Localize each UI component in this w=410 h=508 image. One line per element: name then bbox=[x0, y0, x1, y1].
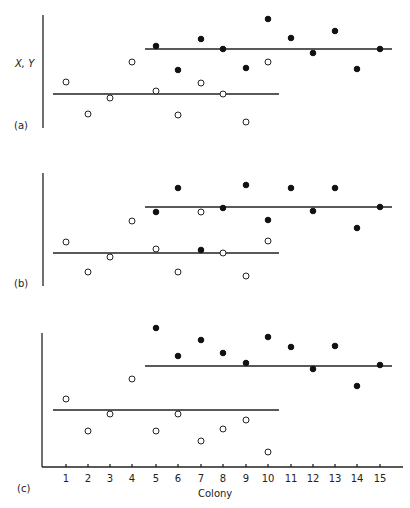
open-point bbox=[220, 91, 226, 97]
filled-point bbox=[153, 43, 159, 49]
open-point bbox=[153, 428, 159, 434]
data-points bbox=[53, 16, 392, 455]
filled-point bbox=[265, 217, 271, 223]
x-tick-label: 3 bbox=[107, 473, 113, 484]
open-point bbox=[153, 246, 159, 252]
open-point bbox=[198, 438, 204, 444]
filled-point bbox=[332, 185, 338, 191]
x-tick-label: 5 bbox=[153, 473, 159, 484]
filled-point bbox=[220, 46, 226, 52]
panel-b: (b) bbox=[14, 173, 43, 289]
filled-point bbox=[265, 16, 271, 22]
open-point bbox=[85, 269, 91, 275]
x-tick-label: 12 bbox=[307, 473, 320, 484]
open-point bbox=[107, 95, 113, 101]
panel-label-a: (a) bbox=[14, 120, 28, 131]
scatter-chart: X, Y (a) (b) (c) Colony 1234567891011121… bbox=[0, 0, 410, 508]
filled-point bbox=[175, 185, 181, 191]
filled-point bbox=[354, 225, 360, 231]
filled-point bbox=[332, 343, 338, 349]
open-point bbox=[63, 79, 69, 85]
x-tick-label: 8 bbox=[220, 473, 226, 484]
x-axis-label: Colony bbox=[198, 488, 232, 499]
open-point bbox=[129, 59, 135, 65]
filled-point bbox=[310, 50, 316, 56]
filled-point bbox=[220, 205, 226, 211]
panel-label-c: (c) bbox=[17, 483, 30, 494]
filled-point bbox=[354, 66, 360, 72]
filled-point bbox=[220, 350, 226, 356]
open-point bbox=[85, 111, 91, 117]
filled-point bbox=[175, 353, 181, 359]
open-point bbox=[243, 273, 249, 279]
open-point bbox=[243, 417, 249, 423]
filled-point bbox=[198, 337, 204, 343]
open-point bbox=[175, 411, 181, 417]
x-tick-label: 6 bbox=[175, 473, 181, 484]
x-tick-label: 14 bbox=[351, 473, 364, 484]
filled-point bbox=[198, 247, 204, 253]
filled-point bbox=[288, 344, 294, 350]
filled-point bbox=[377, 362, 383, 368]
x-tick-label: 15 bbox=[374, 473, 387, 484]
filled-point bbox=[243, 360, 249, 366]
x-tick-label: 10 bbox=[262, 473, 275, 484]
filled-point bbox=[377, 204, 383, 210]
filled-point bbox=[377, 46, 383, 52]
filled-point bbox=[198, 36, 204, 42]
panel-c: (c) Colony bbox=[17, 333, 403, 499]
open-point bbox=[243, 119, 249, 125]
open-point bbox=[220, 426, 226, 432]
x-tick-label: 9 bbox=[243, 473, 249, 484]
filled-point bbox=[310, 366, 316, 372]
filled-point bbox=[243, 65, 249, 71]
filled-point bbox=[243, 182, 249, 188]
open-point bbox=[85, 428, 91, 434]
open-point bbox=[107, 411, 113, 417]
open-point bbox=[265, 238, 271, 244]
open-point bbox=[107, 254, 113, 260]
y-axis-label: X, Y bbox=[14, 58, 35, 69]
x-tick-label: 1 bbox=[63, 473, 69, 484]
open-point bbox=[265, 449, 271, 455]
open-point bbox=[129, 376, 135, 382]
x-tick-label: 11 bbox=[285, 473, 298, 484]
open-point bbox=[175, 112, 181, 118]
open-point bbox=[63, 396, 69, 402]
filled-point bbox=[265, 334, 271, 340]
filled-point bbox=[310, 208, 316, 214]
open-point bbox=[153, 88, 159, 94]
filled-point bbox=[354, 383, 360, 389]
panel-label-b: (b) bbox=[14, 278, 28, 289]
open-point bbox=[220, 250, 226, 256]
x-tick-label: 13 bbox=[329, 473, 342, 484]
x-tick-label: 7 bbox=[198, 473, 204, 484]
open-point bbox=[129, 218, 135, 224]
filled-point bbox=[153, 325, 159, 331]
x-tick-label: 4 bbox=[129, 473, 135, 484]
filled-point bbox=[153, 209, 159, 215]
open-point bbox=[175, 269, 181, 275]
open-point bbox=[265, 59, 271, 65]
filled-point bbox=[288, 35, 294, 41]
panel-a: X, Y (a) bbox=[14, 15, 43, 131]
open-point bbox=[198, 80, 204, 86]
open-point bbox=[63, 239, 69, 245]
filled-point bbox=[332, 28, 338, 34]
open-point bbox=[198, 209, 204, 215]
x-tick-label: 2 bbox=[85, 473, 91, 484]
filled-point bbox=[175, 67, 181, 73]
filled-point bbox=[288, 185, 294, 191]
